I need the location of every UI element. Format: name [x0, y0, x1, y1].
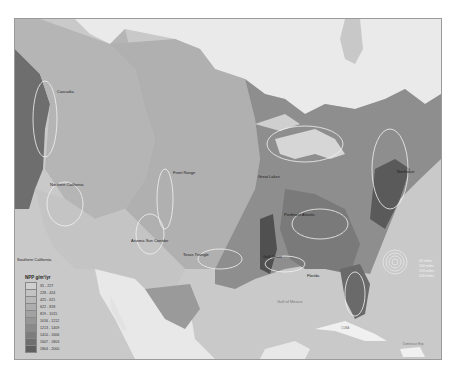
label-dominican: Dominican Rep.: [403, 342, 424, 347]
label-front-range: Front Range: [173, 170, 195, 175]
legend-row: 1016 - 1212: [25, 318, 77, 324]
legend-range: 1213 - 1409: [40, 326, 59, 330]
legend-title: NPP g/m²/yr: [25, 275, 77, 280]
label-southern-california: Southern California: [17, 257, 51, 262]
label-texas-triangle: Texas Triangle: [183, 252, 209, 257]
legend-range: 1607 - 1803: [40, 340, 59, 344]
label-northern-california: Northern California: [50, 182, 84, 187]
yucatan: [260, 341, 310, 359]
symbol-label: 200 miles: [419, 274, 434, 279]
legend-range: 1410 - 1606: [40, 333, 59, 337]
label-gulf-coast: Gulf Coast: [263, 254, 282, 259]
map-frame[interactable]: Cascadia Northern California Southern Ca…: [14, 18, 442, 360]
label-gulf-of-mexico: Gulf of Mexico: [277, 299, 303, 304]
legend-range: 35 - 227: [40, 284, 53, 288]
hispaniola-island: [400, 347, 425, 357]
legend-row: 1410 - 1606: [25, 332, 77, 338]
label-florida: Florida: [307, 273, 319, 278]
distance-rings-symbol: [383, 250, 407, 274]
npp-legend: NPP g/m²/yr 35 - 227 228 - 424 425 - 621…: [25, 275, 77, 353]
legend-range: 425 - 621: [40, 298, 55, 302]
legend-range: 622 - 818: [40, 305, 55, 309]
legend-row: 819 - 1015: [25, 311, 77, 317]
npp-map[interactable]: [15, 19, 441, 359]
label-great-lakes: Great Lakes: [258, 174, 280, 179]
legend-range: 228 - 424: [40, 291, 55, 295]
distance-symbol-legend: 50 miles 100 miles 150 miles 200 miles: [419, 259, 434, 279]
label-northeast: Northeast: [397, 169, 414, 174]
label-cascadia: Cascadia: [57, 89, 74, 94]
legend-range: 1804 - 2000: [40, 347, 59, 351]
legend-row: 228 - 424: [25, 290, 77, 296]
legend-row: 1607 - 1803: [25, 339, 77, 345]
label-arizona-sun-corridor: Arizona Sun Corridor: [131, 238, 168, 243]
legend-row: 425 - 621: [25, 297, 77, 303]
cuba-island: [315, 321, 387, 341]
legend-swatch: [25, 345, 37, 353]
legend-row: 1804 - 2000: [25, 346, 77, 352]
legend-range: 819 - 1015: [40, 312, 57, 316]
legend-row: 35 - 227: [25, 283, 77, 289]
legend-row: 1213 - 1409: [25, 325, 77, 331]
legend-range: 1016 - 1212: [40, 319, 59, 323]
label-cuba: CUBA: [341, 326, 349, 331]
legend-row: 622 - 818: [25, 304, 77, 310]
label-piedmont-atlantic: Piedmont Atlantic: [284, 212, 315, 217]
